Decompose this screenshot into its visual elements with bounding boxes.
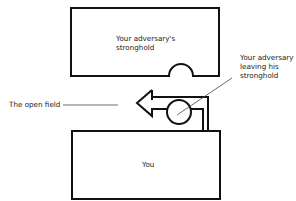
adversary-leaving-label: Your adversary leaving his stronghold xyxy=(240,53,294,80)
open-field-label: The open field xyxy=(9,100,60,109)
adversary-leaving-line1: Your adversary xyxy=(240,53,294,62)
adversary-stronghold-label: Your adversary's stronghold xyxy=(116,34,175,52)
adversary-leaving-line3: stronghold xyxy=(240,71,294,80)
you-label: You xyxy=(142,160,154,169)
adversary-stronghold-label-line1: Your adversary's xyxy=(116,34,175,43)
adversary-leaving-line2: leaving his xyxy=(240,62,294,71)
adversary-circle xyxy=(167,100,191,124)
adversary-stronghold-label-line2: stronghold xyxy=(116,43,175,52)
